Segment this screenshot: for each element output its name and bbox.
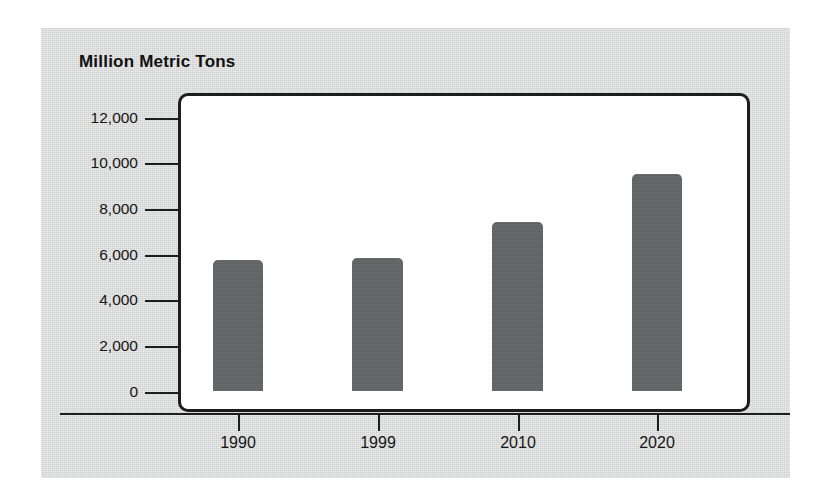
bar-2010[interactable] — [492, 222, 543, 391]
y-axis-labels: 12,000 10,000 8,000 6,000 4,000 2,000 0 — [55, 0, 138, 490]
y-tick-mark-2000 — [145, 346, 178, 348]
x-tick-label-2010: 2010 — [500, 434, 536, 452]
x-tick-mark-2020 — [657, 413, 659, 431]
x-tick-label-1990: 1990 — [220, 434, 256, 452]
bar-1990[interactable] — [213, 260, 263, 391]
y-tick-mark-8000 — [145, 209, 178, 211]
y-tick-label-10000: 10,000 — [91, 154, 138, 172]
bar-2020[interactable] — [632, 174, 682, 392]
x-tick-label-1999: 1999 — [360, 434, 396, 452]
y-tick-label-4000: 4,000 — [99, 291, 138, 309]
bar-1999[interactable] — [352, 258, 403, 392]
y-tick-mark-12000 — [145, 118, 178, 120]
y-tick-label-0: 0 — [129, 383, 138, 401]
y-tick-label-8000: 8,000 — [99, 200, 138, 218]
y-tick-label-12000: 12,000 — [91, 109, 138, 127]
y-tick-label-2000: 2,000 — [99, 337, 138, 355]
x-tick-label-2020: 2020 — [639, 434, 675, 452]
x-axis-line — [60, 413, 790, 415]
y-tick-mark-4000 — [145, 300, 178, 302]
plot-frame — [178, 93, 750, 412]
x-tick-mark-2010 — [518, 413, 520, 431]
y-tick-mark-6000 — [145, 255, 178, 257]
y-tick-mark-0 — [145, 392, 178, 394]
x-tick-mark-1999 — [378, 413, 380, 431]
y-tick-label-6000: 6,000 — [99, 246, 138, 264]
x-tick-mark-1990 — [238, 413, 240, 431]
chart-figure: Million Metric Tons 12,000 10,000 8,000 … — [0, 0, 821, 490]
plot-area — [181, 96, 747, 409]
y-tick-mark-10000 — [145, 163, 178, 165]
